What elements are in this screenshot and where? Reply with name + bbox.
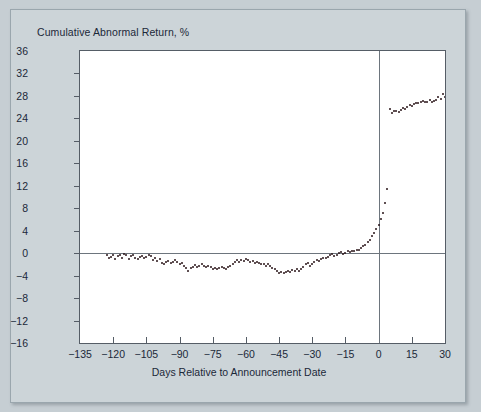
x-tick-label: −15 — [337, 348, 355, 360]
zero-return-line — [80, 253, 445, 254]
data-point — [137, 258, 139, 260]
x-tick-label: −135 — [68, 348, 92, 360]
data-point — [384, 202, 386, 204]
data-point — [313, 261, 315, 263]
chart-title: Cumulative Abnormal Return, % — [37, 26, 189, 38]
data-point — [234, 261, 236, 263]
data-point — [336, 254, 338, 256]
data-point — [280, 271, 282, 273]
data-point — [132, 254, 134, 256]
data-point — [192, 266, 194, 268]
data-point — [134, 257, 136, 259]
y-tick-label: 28 — [16, 90, 28, 102]
y-tick-label: 0 — [22, 247, 28, 259]
data-point — [121, 257, 123, 259]
data-point — [360, 247, 362, 249]
y-tick-label: 20 — [16, 135, 28, 147]
data-point — [378, 224, 380, 226]
data-point — [154, 257, 156, 259]
data-point — [373, 232, 375, 234]
data-point — [128, 258, 130, 260]
data-point — [187, 270, 189, 272]
data-point — [163, 263, 165, 265]
data-point — [364, 244, 366, 246]
data-point — [358, 249, 360, 251]
x-tick-label: −75 — [204, 348, 222, 360]
x-tick-label: −90 — [171, 348, 189, 360]
data-point — [185, 267, 187, 269]
data-point — [442, 93, 444, 95]
data-point — [300, 268, 302, 270]
data-point — [369, 239, 371, 241]
data-point — [106, 254, 108, 256]
data-point — [294, 270, 296, 272]
data-point — [243, 260, 245, 262]
data-point — [283, 272, 285, 274]
data-point — [404, 108, 406, 110]
data-point — [152, 259, 154, 261]
data-point — [398, 111, 400, 113]
y-tick-label: −4 — [16, 270, 28, 282]
data-point — [389, 108, 391, 110]
y-tick-label: −8 — [16, 292, 28, 304]
data-point — [400, 109, 402, 111]
data-point — [307, 262, 309, 264]
x-tick-label: −120 — [101, 348, 125, 360]
data-point — [386, 188, 388, 190]
data-point — [150, 255, 152, 257]
data-point — [156, 260, 158, 262]
data-point — [435, 99, 437, 101]
data-point — [444, 96, 445, 98]
x-tick-label: 30 — [439, 348, 451, 360]
data-point — [176, 261, 178, 263]
data-point — [229, 265, 231, 267]
data-point — [371, 235, 373, 237]
data-point — [181, 262, 183, 264]
x-tick-label: −60 — [237, 348, 255, 360]
y-tick-label: 4 — [22, 225, 28, 237]
data-point — [380, 218, 382, 220]
x-tick-label: −105 — [135, 348, 159, 360]
data-point — [249, 261, 251, 263]
y-tick-label: 8 — [22, 202, 28, 214]
data-point — [426, 101, 428, 103]
data-point — [417, 102, 419, 104]
figure-card: Cumulative Abnormal Return, % −16−12−8−4… — [10, 9, 466, 403]
y-tick-label: 36 — [16, 45, 28, 57]
x-tick-label: 15 — [406, 348, 418, 360]
data-point — [382, 212, 384, 214]
data-point — [440, 98, 442, 100]
y-tick-label: 24 — [16, 112, 28, 124]
data-point — [391, 112, 393, 114]
y-tick-label: −12 — [10, 315, 28, 327]
y-tick-label: 12 — [16, 180, 28, 192]
y-tick-label: 32 — [16, 67, 28, 79]
data-point — [112, 254, 114, 256]
data-point — [311, 263, 313, 265]
data-point — [406, 106, 408, 108]
data-point — [145, 256, 147, 258]
data-point — [302, 266, 304, 268]
data-point — [367, 241, 369, 243]
announcement-day-line — [379, 51, 380, 343]
scatter-series-layer — [80, 51, 445, 343]
data-point — [114, 258, 116, 260]
data-point — [198, 265, 200, 267]
data-point — [125, 254, 127, 256]
data-point — [232, 263, 234, 265]
data-point — [225, 268, 227, 270]
y-tick-label: −16 — [10, 337, 28, 349]
data-point — [159, 258, 161, 260]
data-point — [411, 105, 413, 107]
data-point — [119, 254, 121, 256]
x-axis-label: Days Relative to Announcement Date — [11, 366, 467, 378]
data-point — [207, 265, 209, 267]
x-tick-label: −45 — [270, 348, 288, 360]
data-point — [318, 260, 320, 262]
x-tick-label: −30 — [303, 348, 321, 360]
data-point — [218, 267, 220, 269]
y-tick-label: 16 — [16, 157, 28, 169]
x-tick-label: 0 — [376, 348, 382, 360]
data-point — [375, 228, 377, 230]
